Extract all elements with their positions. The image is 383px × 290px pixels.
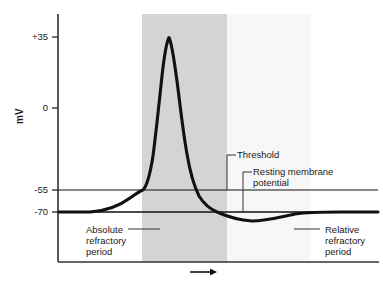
resting-leader <box>243 172 252 212</box>
y-axis-title: mV <box>14 108 25 124</box>
y-tick-label-minus70: -70 <box>8 206 48 217</box>
threshold-leader <box>227 155 236 190</box>
absolute-refractory-label-line3: period <box>86 246 112 257</box>
y-tick-label-minus55: -55 <box>8 184 48 195</box>
resting-label-line2: potential <box>253 177 289 188</box>
threshold-label: Threshold <box>237 149 279 160</box>
relative-refractory-label-line1: Relative <box>325 224 359 235</box>
absolute-refractory-label-line1: Absolute <box>86 224 123 235</box>
resting-label-line1: Resting membrane <box>253 166 333 177</box>
action-potential-figure: +35 0 -55 -70 mV Threshold Resting membr… <box>0 0 383 290</box>
time-arrow-head <box>210 269 217 276</box>
absolute-refractory-label-line2: refractory <box>86 235 126 246</box>
relative-refractory-label-line2: refractory <box>325 235 365 246</box>
y-tick-label-35: +35 <box>8 31 48 42</box>
relative-refractory-label-line3: period <box>325 246 351 257</box>
